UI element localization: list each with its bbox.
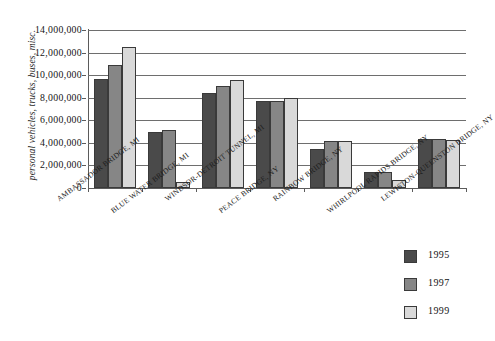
legend: 199519971999 [404, 250, 478, 334]
bar [216, 86, 230, 188]
bar-group [256, 30, 298, 188]
plot-area [88, 30, 466, 188]
y-tick-mark [82, 98, 86, 99]
bar [230, 80, 244, 188]
y-tick-label: 12,000,000 [35, 47, 82, 58]
y-axis-tick-labels: 02,000,0004,000,0006,000,0008,000,00010,… [0, 30, 82, 188]
y-tick-mark [82, 30, 86, 31]
legend-label: 1997 [428, 277, 450, 288]
y-tick-label: 8,000,000 [40, 92, 82, 103]
bar [108, 65, 122, 188]
legend-item: 1999 [404, 306, 478, 334]
bar [284, 98, 298, 188]
y-tick-label: 6,000,000 [40, 114, 82, 125]
y-tick-label: 14,000,000 [35, 24, 82, 35]
x-tick-mark [466, 188, 467, 192]
y-tick-mark [82, 188, 86, 189]
y-tick-label: 4,000,000 [40, 137, 82, 148]
y-tick-mark [82, 143, 86, 144]
bar [122, 47, 136, 188]
x-tick-mark [196, 188, 197, 192]
y-tick-label: 2,000,000 [40, 159, 82, 170]
legend-swatch [404, 278, 417, 291]
y-tick-mark [82, 53, 86, 54]
legend-item: 1995 [404, 250, 478, 278]
x-tick-mark [412, 188, 413, 192]
y-tick-mark [82, 165, 86, 166]
legend-item: 1997 [404, 278, 478, 306]
x-tick-mark [88, 188, 89, 192]
y-tick-label: 10,000,000 [35, 69, 82, 80]
x-tick-mark [304, 188, 305, 192]
legend-swatch [404, 306, 417, 319]
legend-label: 1995 [428, 249, 450, 260]
legend-label: 1999 [428, 305, 450, 316]
legend-swatch [404, 250, 417, 263]
y-tick-mark [82, 120, 86, 121]
y-tick-mark [82, 75, 86, 76]
